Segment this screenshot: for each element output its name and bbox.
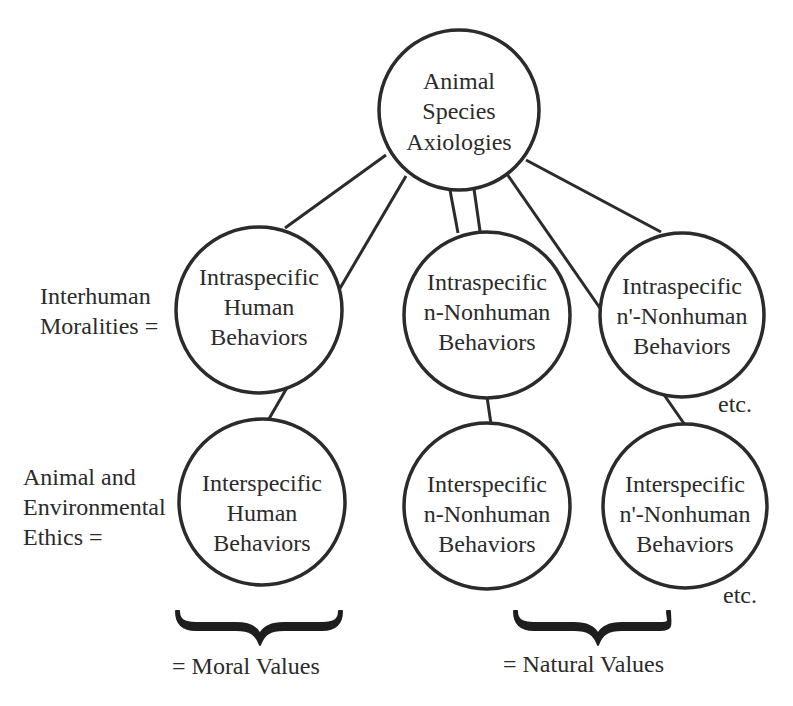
moral-values-label: = Moral Values (172, 653, 320, 679)
node-line: Species (422, 98, 495, 124)
node-animal-species-axiologies: Animal Species Axiologies (379, 30, 539, 190)
node-line: Behaviors (213, 530, 310, 556)
node-interspecific-n-prime-nonhuman-behaviors: Interspecific n'-Nonhuman Behaviors (603, 424, 767, 588)
node-line: Behaviors (633, 333, 730, 359)
row-label-line: Environmental (23, 494, 166, 520)
node-line: Behaviors (636, 531, 733, 557)
etc-label-interspecific: etc. (723, 582, 757, 608)
node-line: Intraspecific (427, 269, 547, 295)
node-line: n-Nonhuman (424, 299, 551, 325)
node-line: n'-Nonhuman (617, 303, 748, 329)
edge-root-to-intra-human (285, 155, 386, 228)
etc-label-intraspecific: etc. (718, 391, 752, 417)
row-label-line: Animal and (23, 464, 136, 490)
edge-root-to-intra-n-left (450, 190, 458, 233)
row-label-line: Moralities = (40, 313, 158, 339)
brace-moral-values-icon (176, 611, 342, 645)
node-line: n-Nonhuman (424, 501, 551, 527)
node-line: Behaviors (438, 329, 535, 355)
row-label-line: Interhuman (40, 283, 151, 309)
node-line: Axiologies (406, 129, 511, 155)
node-line: Behaviors (438, 531, 535, 557)
edge-root-to-intra-n-right (474, 189, 480, 231)
row-label-line: Ethics = (23, 524, 103, 550)
node-line: Intraspecific (622, 273, 742, 299)
node-line: Intraspecific (199, 264, 319, 290)
node-line: n'-Nonhuman (620, 501, 751, 527)
node-line: Interspecific (427, 471, 547, 497)
node-line: Interspecific (625, 471, 745, 497)
edge-root-to-inter-human (339, 176, 406, 290)
edge-root-to-intra-n-prime (526, 160, 661, 232)
row-label-animal-environmental-ethics: Animal and Environmental Ethics = (23, 464, 166, 550)
natural-values-label: = Natural Values (503, 651, 664, 677)
node-interspecific-n-nonhuman-behaviors: Interspecific n-Nonhuman Behaviors (404, 423, 570, 589)
node-interspecific-human-behaviors: Interspecific Human Behaviors (179, 419, 345, 585)
node-line: Human (224, 294, 295, 320)
node-line: Behaviors (210, 324, 307, 350)
node-intraspecific-n-prime-nonhuman-behaviors: Intraspecific n'-Nonhuman Behaviors (600, 233, 764, 397)
axiology-diagram: Animal Species Axiologies Intraspecific … (0, 0, 793, 706)
node-line: Human (227, 500, 298, 526)
node-line: Animal (423, 68, 495, 94)
row-label-interhuman-moralities: Interhuman Moralities = (40, 283, 158, 339)
brace-natural-values-icon (514, 611, 671, 645)
node-intraspecific-human-behaviors: Intraspecific Human Behaviors (176, 227, 342, 393)
node-intraspecific-n-nonhuman-behaviors: Intraspecific n-Nonhuman Behaviors (404, 232, 570, 398)
node-line: Interspecific (202, 470, 322, 496)
